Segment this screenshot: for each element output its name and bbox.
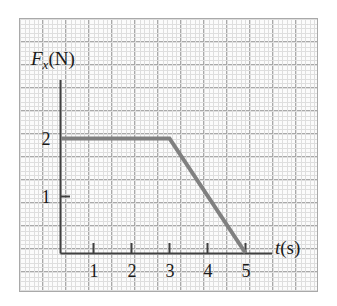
x-tick-label-1: 1 <box>86 262 102 280</box>
y-tick-label-2: 2 <box>38 130 54 148</box>
x-tick-label-4: 4 <box>200 262 216 280</box>
x-tick-label-3: 3 <box>162 262 178 280</box>
y-axis-label: Fx(N) <box>31 49 75 71</box>
force-curve <box>61 139 246 254</box>
x-axis-label-unit: (s) <box>280 237 300 258</box>
y-axis-label-unit: (N) <box>48 48 74 69</box>
x-tick-label-5: 5 <box>238 262 254 280</box>
y-axis-label-symbol: F <box>31 48 43 69</box>
y-tick-label-1: 1 <box>38 188 54 206</box>
force-time-graph-figure: Fx(N) t(s) 2 1 1 2 3 4 5 <box>0 0 337 306</box>
x-axis-label: t(s) <box>275 238 300 257</box>
x-tick-label-2: 2 <box>124 262 140 280</box>
